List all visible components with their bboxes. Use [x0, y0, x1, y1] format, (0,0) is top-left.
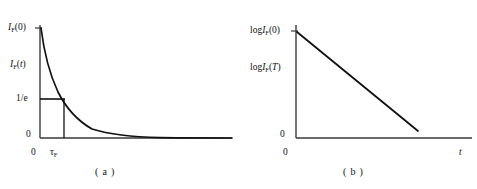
panel-a-plot: [0, 0, 238, 189]
panel-b-x-axis-title: t: [459, 147, 462, 157]
panel-b-y-label-log-at-T: logIF(T): [250, 63, 281, 73]
panel-b-log-line: [297, 32, 418, 131]
figure-container: IF(0) IF(t) 1/e 0 0 τF ( a ) logIF(0) lo…: [0, 0, 477, 189]
panel-a-y-label-zero: 0: [26, 130, 31, 140]
panel-a-caption: ( a ): [95, 166, 115, 177]
panel-b-y-label-zero: 0: [280, 130, 285, 140]
panel-a-exponential-decay: IF(0) IF(t) 1/e 0 0 τF ( a ): [0, 0, 238, 189]
panel-a-y-label-one-over-e: 1/e: [16, 94, 28, 104]
panel-a-x-label-zero: 0: [31, 148, 36, 158]
panel-b-log-decay: logIF(0) logIF(T) 0 0 t ( b ): [238, 0, 477, 189]
panel-a-y-label-intensity-t: IF(t): [10, 60, 26, 70]
panel-b-x-label-zero: 0: [283, 148, 288, 158]
panel-b-caption: ( b ): [343, 166, 364, 177]
panel-a-y-label-initial-intensity: IF(0): [8, 23, 26, 33]
panel-a-x-label-tau-f: τF: [50, 148, 57, 158]
panel-b-y-label-log-initial: logIF(0): [250, 26, 280, 36]
panel-a-decay-curve: [41, 28, 232, 138]
